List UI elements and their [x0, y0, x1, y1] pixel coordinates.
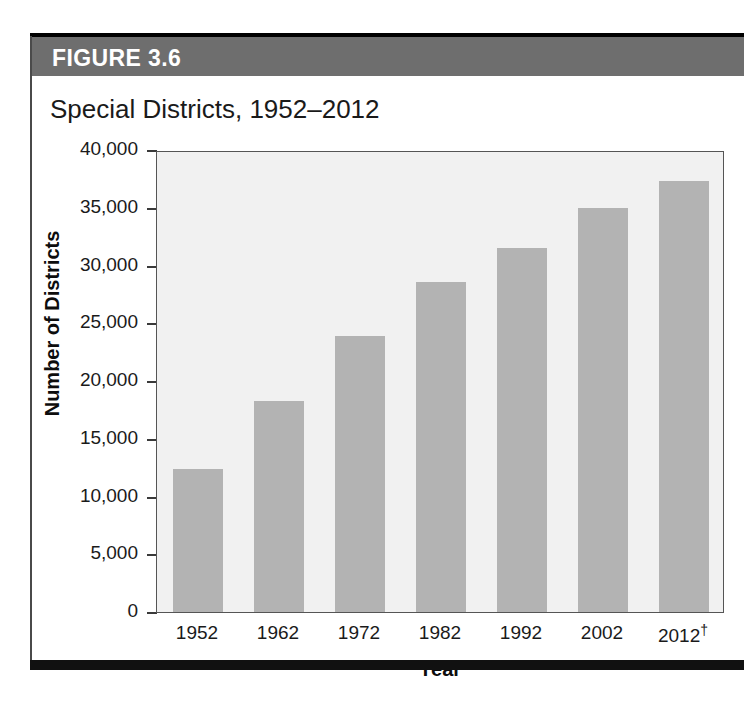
bar: [416, 282, 466, 612]
y-axis-tick-label: 35,000: [48, 196, 138, 218]
bar: [335, 336, 385, 612]
y-axis-tick-label: 20,000: [48, 369, 138, 391]
y-axis-tick-label: 10,000: [48, 485, 138, 507]
figure-bottom-rule: [30, 660, 744, 670]
bar: [254, 401, 304, 612]
y-axis-tick-label: 0: [48, 600, 138, 622]
figure-number-label: FIGURE 3.6: [52, 45, 181, 72]
plot-area: [156, 151, 724, 613]
figure-title: Special Districts, 1952–2012: [50, 94, 380, 125]
bar: [173, 469, 223, 612]
bar: [578, 208, 628, 612]
bar: [659, 181, 709, 612]
figure-left-rule: [30, 36, 32, 660]
bars-layer: [157, 152, 723, 612]
y-axis-tick-label: 15,000: [48, 427, 138, 449]
bar: [497, 248, 547, 612]
y-axis-tick-label: 5,000: [48, 542, 138, 564]
y-axis-tick-label: 25,000: [48, 311, 138, 333]
x-axis-tick-label: 2012†: [628, 622, 738, 647]
y-axis-tick-label: 30,000: [48, 254, 138, 276]
footnote-dagger-marker: †: [700, 622, 708, 638]
y-axis-tick-label: 40,000: [48, 138, 138, 160]
figure-container: FIGURE 3.6 Special Districts, 1952–2012 …: [0, 0, 744, 709]
